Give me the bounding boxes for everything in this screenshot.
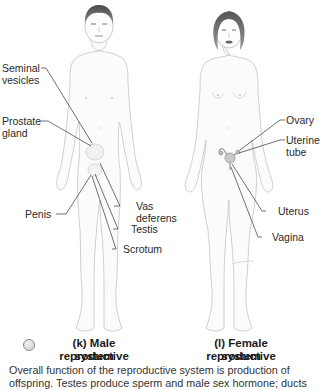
caption-male-line2: system [38,350,150,363]
label-seminal-vesicles-line2: vesicles [2,74,39,86]
label-ovary: Ovary [286,114,314,126]
male-figure [57,5,142,331]
label-seminal-vesicles-line1: Seminal [2,62,40,74]
label-uterus: Uterus [278,205,309,217]
label-prostate-gland-line2: gland [2,127,28,139]
female-ovary-left [219,151,223,155]
female-ovary-right [236,150,240,154]
male-pelvic-organs [86,144,104,160]
description-text: Overall function of the reproductive sys… [9,364,327,390]
label-vagina: Vagina [272,231,304,243]
label-uterine-tube-line2: tube [286,146,306,158]
label-vas-deferens-line1: Vas [136,200,153,212]
select-radio-button[interactable] [23,339,35,351]
label-testis: Testis [131,223,158,235]
label-uterine-tube-line1: Uterine [286,134,320,146]
female-body-outline [185,44,273,331]
label-penis: Penis [25,208,51,220]
caption-female-line2: system [182,350,300,363]
label-scrotum: Scrotum [123,243,162,255]
male-body-outline [57,38,142,331]
female-figure [185,11,273,331]
female-uterus [225,153,235,163]
label-prostate-gland-line1: Prostate [2,115,41,127]
